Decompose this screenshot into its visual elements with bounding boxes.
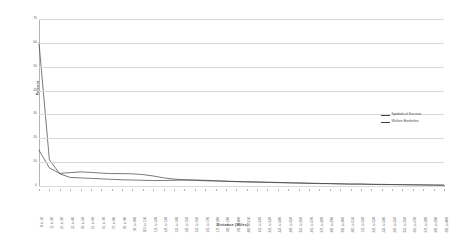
x-axis-tick-mark <box>195 189 196 191</box>
x-axis-tick-mark <box>101 189 102 191</box>
x-axis-tick-mark <box>122 189 123 191</box>
x-axis-tick-mark <box>112 189 113 191</box>
x-axis-tick-mark <box>361 189 362 191</box>
x-axis-tick-mark <box>153 189 154 191</box>
x-axis-tick-mark <box>236 189 237 191</box>
x-axis-tick-mark <box>299 189 300 191</box>
legend-line-swatch <box>381 122 390 123</box>
gridline <box>39 91 444 92</box>
legend-item[interactable]: Symbols of Success <box>381 112 421 118</box>
x-axis-tick-mark <box>174 189 175 191</box>
gridline <box>39 162 444 163</box>
gridline <box>39 43 444 44</box>
legend-item-label: Welfare Borderline <box>392 120 419 123</box>
gridline <box>39 138 444 139</box>
x-axis-tick-mark <box>351 189 352 191</box>
x-axis-tick-mark <box>60 189 61 191</box>
x-axis-tick-mark <box>132 189 133 191</box>
y-axis-tick-label: 20 <box>33 137 37 140</box>
x-axis-tick-labels: 0 to 1011 to 2021 to 3031 to 4041 to 505… <box>39 189 445 219</box>
x-axis-tick-mark <box>319 189 320 191</box>
y-axis-tick-label: 50 <box>33 65 37 68</box>
y-axis-tick-label: 60 <box>33 41 37 44</box>
x-axis-tick-mark <box>278 189 279 191</box>
x-axis-tick-mark <box>81 189 82 191</box>
series-lines <box>39 19 444 186</box>
line-chart: Percent 010203040506070 0 to 1011 to 202… <box>0 0 465 240</box>
x-axis-tick-mark <box>330 189 331 191</box>
x-axis-tick-mark <box>164 189 165 191</box>
gridline <box>39 19 444 20</box>
x-axis-tick-mark <box>143 189 144 191</box>
x-axis-tick-mark <box>288 189 289 191</box>
y-axis-tick-label: 40 <box>33 89 37 92</box>
x-axis-title: Distance (Miles) <box>0 223 465 227</box>
y-axis-tick-label: 0 <box>35 184 37 187</box>
gridline <box>39 186 444 187</box>
legend-line-swatch <box>381 115 390 116</box>
chart-legend: Symbols of SuccessWelfare Borderline <box>381 112 421 126</box>
x-axis-tick-mark <box>184 189 185 191</box>
x-axis-tick-mark <box>70 189 71 191</box>
x-axis-tick-mark <box>413 189 414 191</box>
x-axis-tick-mark <box>371 189 372 191</box>
series-line-0 <box>39 150 444 185</box>
legend-item-label: Symbols of Success <box>392 113 422 116</box>
x-axis-tick-mark <box>382 189 383 191</box>
x-axis-tick-mark <box>434 189 435 191</box>
x-axis-tick-mark <box>91 189 92 191</box>
x-axis-tick-mark <box>423 189 424 191</box>
x-axis-tick-mark <box>226 189 227 191</box>
x-axis-tick-mark <box>402 189 403 191</box>
x-axis-tick-mark <box>39 189 40 191</box>
x-axis-tick-mark <box>340 189 341 191</box>
x-axis-tick-mark <box>257 189 258 191</box>
x-axis-tick-mark <box>267 189 268 191</box>
plot-area: 010203040506070 <box>39 19 444 186</box>
x-axis-tick-mark <box>309 189 310 191</box>
x-axis-tick-mark <box>49 189 50 191</box>
y-axis-tick-label: 30 <box>33 113 37 116</box>
x-axis-tick-mark <box>216 189 217 191</box>
x-axis-tick-mark <box>444 189 445 191</box>
gridline <box>39 67 444 68</box>
y-axis-tick-label: 10 <box>33 160 37 163</box>
x-axis-tick-mark <box>205 189 206 191</box>
x-axis-tick-mark <box>247 189 248 191</box>
x-axis-tick-mark <box>392 189 393 191</box>
legend-item[interactable]: Welfare Borderline <box>381 119 421 125</box>
y-axis-tick-label: 70 <box>33 17 37 20</box>
